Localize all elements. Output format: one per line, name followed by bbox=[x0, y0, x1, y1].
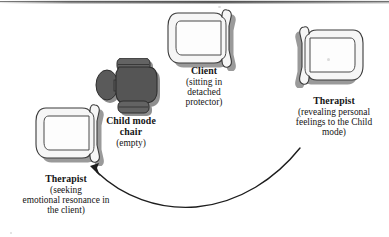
chair-body bbox=[300, 27, 363, 85]
therapist-right-label-title: Therapist bbox=[281, 96, 387, 107]
client-label-line-1: (sitting in bbox=[168, 77, 240, 87]
therapist-right-label-line-1: (revealing personal bbox=[281, 107, 387, 117]
scan-artifact-line-dark bbox=[0, 0, 389, 5]
client-chair[interactable] bbox=[166, 9, 240, 71]
therapist-left-label-title: Therapist bbox=[2, 174, 130, 185]
child-mode-chair-label-title-2: chair bbox=[86, 127, 176, 138]
client-label-title: Client bbox=[168, 66, 240, 77]
client-label-line-3: protector) bbox=[168, 97, 240, 107]
therapist-left-label-line-3: the client) bbox=[2, 205, 130, 215]
child-mode-chair-label-title-1: Child mode bbox=[86, 116, 176, 127]
figure-canvas: Client (sitting in detached protector) C… bbox=[0, 0, 389, 237]
client-label-line-2: detached bbox=[168, 87, 240, 97]
scan-speck bbox=[10, 232, 12, 234]
therapist-left-label: Therapist (seeking emotional resonance i… bbox=[2, 174, 130, 216]
child-mode-chair-label: Child mode chair (empty) bbox=[86, 116, 176, 148]
therapist-right-label-line-3: mode) bbox=[281, 127, 387, 137]
therapist-right-label-line-2: feelings to the Child bbox=[281, 117, 387, 127]
client-label: Client (sitting in detached protector) bbox=[168, 66, 240, 108]
child-mode-chair-label-detail: (empty) bbox=[86, 138, 176, 148]
scan-speck bbox=[327, 58, 330, 61]
chair-body bbox=[168, 10, 231, 68]
therapist-left-label-line-2: emotional resonance in bbox=[2, 195, 130, 205]
therapist-right-label: Therapist (revealing personal feelings t… bbox=[281, 96, 387, 138]
therapist-left-label-line-1: (seeking bbox=[2, 185, 130, 195]
therapist-right-chair[interactable] bbox=[291, 26, 365, 88]
scan-speck bbox=[218, 6, 221, 8]
